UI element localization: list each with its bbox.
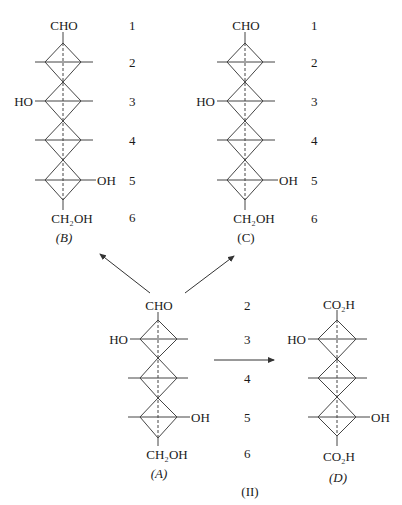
a-carbon-3: 3	[244, 333, 251, 346]
c-carbon-6: 6	[311, 212, 318, 225]
c-carbon-5: 5	[311, 174, 318, 187]
reaction-diagram	[0, 0, 402, 505]
b-c5-right-group: OH	[97, 174, 116, 187]
structure-d-skeleton	[308, 310, 370, 446]
a-c3-left-group: HO	[109, 333, 128, 346]
b-carbon-4: 4	[129, 134, 136, 147]
c-c3-left-group: HO	[196, 95, 215, 108]
structure-c-skeleton	[217, 32, 278, 210]
c-bottom-group: CH₂OH	[233, 212, 274, 225]
d-top-group: CO₂H	[323, 298, 355, 311]
b-carbon-5: 5	[129, 174, 136, 187]
a-carbon-4: 4	[244, 372, 251, 385]
a-bottom-group: CH₂OH	[146, 448, 187, 461]
c-carbon-4: 4	[311, 134, 318, 147]
arrow-a-to-c	[185, 256, 234, 293]
b-carbon-3: 3	[129, 95, 136, 108]
c-carbon-3: 3	[311, 95, 318, 108]
a-label: (A)	[151, 467, 168, 480]
b-top-group: CHO	[50, 19, 77, 32]
a-c5-right-group: OH	[191, 411, 210, 424]
structure-b-skeleton	[35, 32, 96, 210]
d-c4-right-group: OH	[371, 411, 390, 424]
c-carbon-2: 2	[311, 56, 318, 69]
b-c3-left-group: HO	[14, 95, 33, 108]
b-label: (B)	[56, 231, 73, 244]
c-top-group: CHO	[232, 19, 259, 32]
a-top-group: CHO	[145, 299, 172, 312]
arrow-a-to-b	[100, 254, 150, 293]
d-c2-left-group: HO	[287, 333, 306, 346]
b-carbon-2: 2	[129, 56, 136, 69]
a-carbon-5: 5	[244, 411, 251, 424]
c-carbon-1: 1	[311, 19, 318, 32]
a-carbon-6: 6	[244, 447, 251, 460]
c-label: (C)	[237, 231, 254, 244]
figure-caption: (II)	[241, 485, 258, 498]
c-c5-right-group: OH	[279, 174, 298, 187]
d-bottom-group: CO₂H	[323, 450, 355, 463]
b-carbon-6: 6	[129, 211, 136, 224]
d-label: (D)	[329, 471, 347, 484]
b-bottom-group: CH₂OH	[51, 212, 92, 225]
b-carbon-1: 1	[129, 19, 136, 32]
structure-a-skeleton	[128, 312, 190, 446]
a-carbon-2: 2	[244, 299, 251, 312]
